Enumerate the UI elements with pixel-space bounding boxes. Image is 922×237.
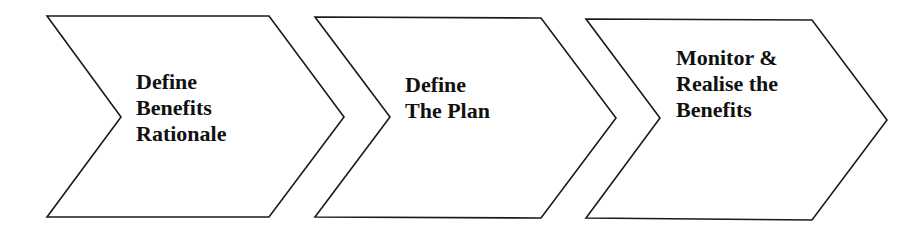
step-2-line-2: The Plan <box>405 98 490 124</box>
step-2-line-1: Define <box>405 72 490 98</box>
step-1-line-1: Define <box>136 69 226 95</box>
step-3-line-2: Realise the <box>676 71 778 97</box>
step-3-line-1: Monitor & <box>676 45 778 71</box>
step-2-label: Define The Plan <box>405 72 490 124</box>
step-1-label: Define Benefits Rationale <box>136 69 226 147</box>
step-3-line-3: Benefits <box>676 97 778 123</box>
step-1-line-3: Rationale <box>136 121 226 147</box>
step-1-line-2: Benefits <box>136 95 226 121</box>
step-3-label: Monitor & Realise the Benefits <box>676 45 778 123</box>
